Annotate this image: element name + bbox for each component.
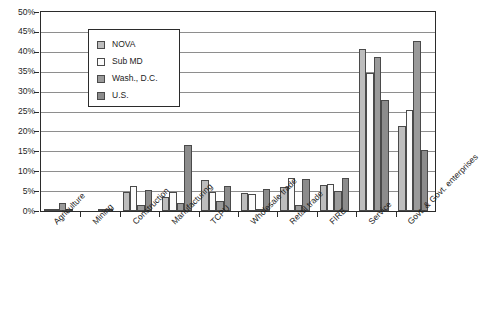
bar — [241, 193, 248, 211]
bar-group — [199, 12, 238, 211]
y-axis: 50%45%40%35%30%25%20%15%10%5%0% — [0, 0, 40, 215]
legend-swatch-icon — [97, 58, 105, 66]
y-axis-tick-mark — [34, 12, 39, 13]
legend-swatch-icon — [97, 75, 105, 83]
y-axis-tick-label: 20% — [18, 127, 35, 135]
bar-group — [396, 12, 435, 211]
y-axis-tick-mark — [34, 131, 39, 132]
bar — [381, 100, 388, 211]
chart-legend: NOVASub MDWash., D.C.U.S. — [88, 29, 180, 107]
bar — [359, 49, 366, 211]
bar — [342, 178, 349, 211]
legend-swatch-icon — [97, 92, 105, 100]
y-axis-tick-mark — [34, 32, 39, 33]
bar — [169, 192, 176, 211]
y-axis-tick-label: 30% — [18, 87, 35, 95]
bar-group — [317, 12, 356, 211]
y-axis-tick-label: 10% — [18, 167, 35, 175]
y-axis-tick-label: 50% — [18, 8, 35, 16]
bar — [413, 41, 420, 211]
bar — [51, 209, 58, 211]
legend-item: NOVA — [97, 36, 179, 53]
y-axis-tick-mark — [34, 191, 39, 192]
y-axis-tick-mark — [34, 112, 39, 113]
legend-item: Wash., D.C. — [97, 70, 179, 87]
bar — [123, 192, 130, 211]
legend-label: Wash., D.C. — [112, 74, 158, 83]
x-axis: AgricultureMiningConstructionManufacturi… — [0, 212, 447, 310]
bar — [209, 192, 216, 212]
y-axis-tick-label: 15% — [18, 147, 35, 155]
legend-swatch-icon — [97, 41, 105, 49]
bar — [366, 73, 373, 211]
bar-group — [356, 12, 395, 211]
y-axis-tick-label: 35% — [18, 67, 35, 75]
y-axis-tick-mark — [34, 72, 39, 73]
y-axis-tick-mark — [34, 52, 39, 53]
bar-group — [238, 12, 277, 211]
bar — [248, 194, 255, 211]
y-axis-tick-mark — [34, 92, 39, 93]
legend-label: Sub MD — [112, 57, 143, 66]
y-axis-tick-label: 25% — [18, 107, 35, 115]
legend-item: U.S. — [97, 87, 179, 104]
bar — [130, 186, 137, 211]
y-axis-tick-label: 40% — [18, 47, 35, 55]
y-axis-tick-mark — [34, 151, 39, 152]
bar — [327, 184, 334, 211]
bar — [374, 57, 381, 211]
legend-label: NOVA — [112, 40, 135, 49]
legend-item: Sub MD — [97, 53, 179, 70]
bar — [406, 110, 413, 211]
bar — [398, 126, 405, 211]
y-axis-tick-label: 45% — [18, 27, 35, 35]
y-axis-tick-mark — [34, 171, 39, 172]
legend-label: U.S. — [112, 91, 129, 100]
bar — [44, 209, 51, 211]
bar-group — [41, 12, 80, 211]
